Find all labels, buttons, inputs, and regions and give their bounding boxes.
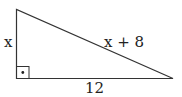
hypotenuse-label: x + 8 bbox=[104, 33, 144, 51]
right-angle-dot bbox=[21, 71, 24, 74]
triangle-outline bbox=[17, 10, 174, 79]
right-triangle-diagram: x x + 8 12 bbox=[0, 0, 182, 97]
base-label: 12 bbox=[85, 79, 104, 97]
left-side-label: x bbox=[4, 33, 13, 51]
